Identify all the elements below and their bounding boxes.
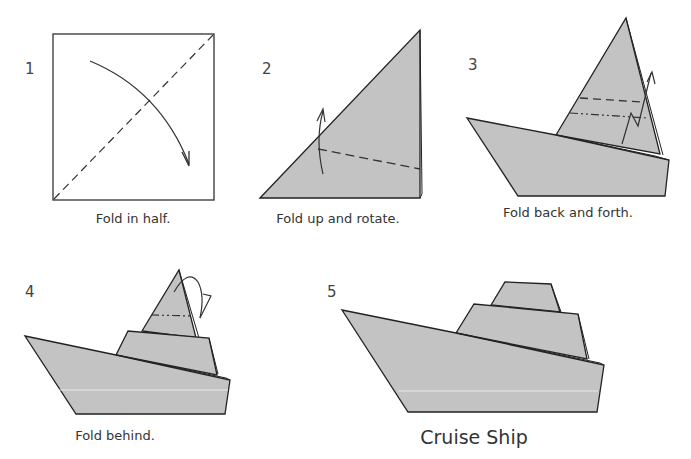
step-number-1: 1 [25,60,35,78]
step-3-figure [467,18,669,196]
origami-diagram [0,0,691,459]
step-caption-2: Fold up and rotate. [276,211,399,226]
step-1-figure [53,34,214,200]
step-2-figure [260,30,422,198]
diagram-title: Cruise Ship [420,426,527,448]
step-number-4: 4 [25,283,35,301]
paper-triangle [260,30,420,198]
funnel-flap [142,270,196,338]
step-caption-1: Fold in half. [96,211,171,226]
step-number-2: 2 [262,60,272,78]
step-caption-4: Fold behind. [75,428,155,443]
step-number-5: 5 [327,283,337,301]
step-5-figure [342,282,604,412]
step-4-figure [25,270,230,414]
step-caption-3: Fold back and forth. [503,205,633,220]
step-number-3: 3 [468,56,478,74]
